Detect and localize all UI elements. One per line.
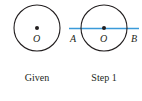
caption-step-1: Step 1 bbox=[91, 72, 116, 83]
center-point-step-1 bbox=[102, 26, 106, 30]
center-point-given bbox=[35, 26, 39, 30]
point-label-a: A bbox=[69, 33, 77, 44]
construction-diagram: O Given A O B Step 1 bbox=[0, 0, 142, 101]
point-label-b: B bbox=[131, 33, 137, 44]
caption-given: Given bbox=[25, 72, 49, 83]
center-label-given: O bbox=[33, 33, 40, 44]
figure-given: O Given bbox=[14, 5, 60, 83]
center-label-step-1: O bbox=[100, 33, 107, 44]
figure-step-1: A O B Step 1 bbox=[69, 5, 139, 83]
